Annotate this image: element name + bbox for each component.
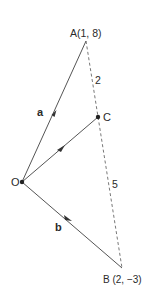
point-O bbox=[20, 180, 24, 184]
label-B: B (2, −3) bbox=[103, 274, 142, 285]
vector-b-line bbox=[22, 182, 122, 268]
vector-b-arrow-icon bbox=[64, 215, 72, 221]
label-vector-a: a bbox=[37, 106, 44, 118]
point-C bbox=[96, 115, 100, 119]
label-A: A(1, 8) bbox=[70, 27, 102, 39]
vector-diagram: A(1, 8) O C B (2, −3) a b 2 5 bbox=[0, 0, 150, 299]
vector-a-line bbox=[22, 41, 86, 182]
label-vector-b: b bbox=[55, 221, 62, 233]
label-ratio-5: 5 bbox=[112, 178, 118, 190]
label-C: C bbox=[103, 111, 111, 123]
label-ratio-2: 2 bbox=[95, 74, 101, 86]
label-O: O bbox=[11, 176, 20, 188]
dashed-line-AB bbox=[86, 41, 122, 268]
